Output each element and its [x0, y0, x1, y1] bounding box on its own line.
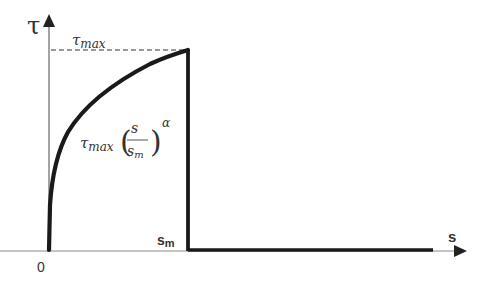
- svg-text:): ): [150, 124, 162, 159]
- origin-label: 0: [37, 259, 45, 275]
- formula: τmax ( s sm ) α: [80, 116, 170, 160]
- y-axis-label: τ: [27, 12, 40, 40]
- bond-slip-curve: [49, 50, 188, 250]
- y-axis-arrow-icon: [43, 14, 55, 27]
- tau-max-label: τmax: [72, 31, 106, 51]
- svg-text:sm: sm: [127, 143, 144, 160]
- sm-label: sm: [157, 232, 175, 249]
- x-axis-label: s: [448, 228, 456, 245]
- bond-slip-diagram: τ s 0 τmax sm τmax ( s sm ) α: [0, 0, 492, 287]
- svg-text:s: s: [131, 120, 138, 136]
- svg-text:α: α: [162, 116, 170, 130]
- x-axis-arrow-icon: [454, 245, 467, 257]
- svg-text:τmax: τmax: [80, 134, 114, 154]
